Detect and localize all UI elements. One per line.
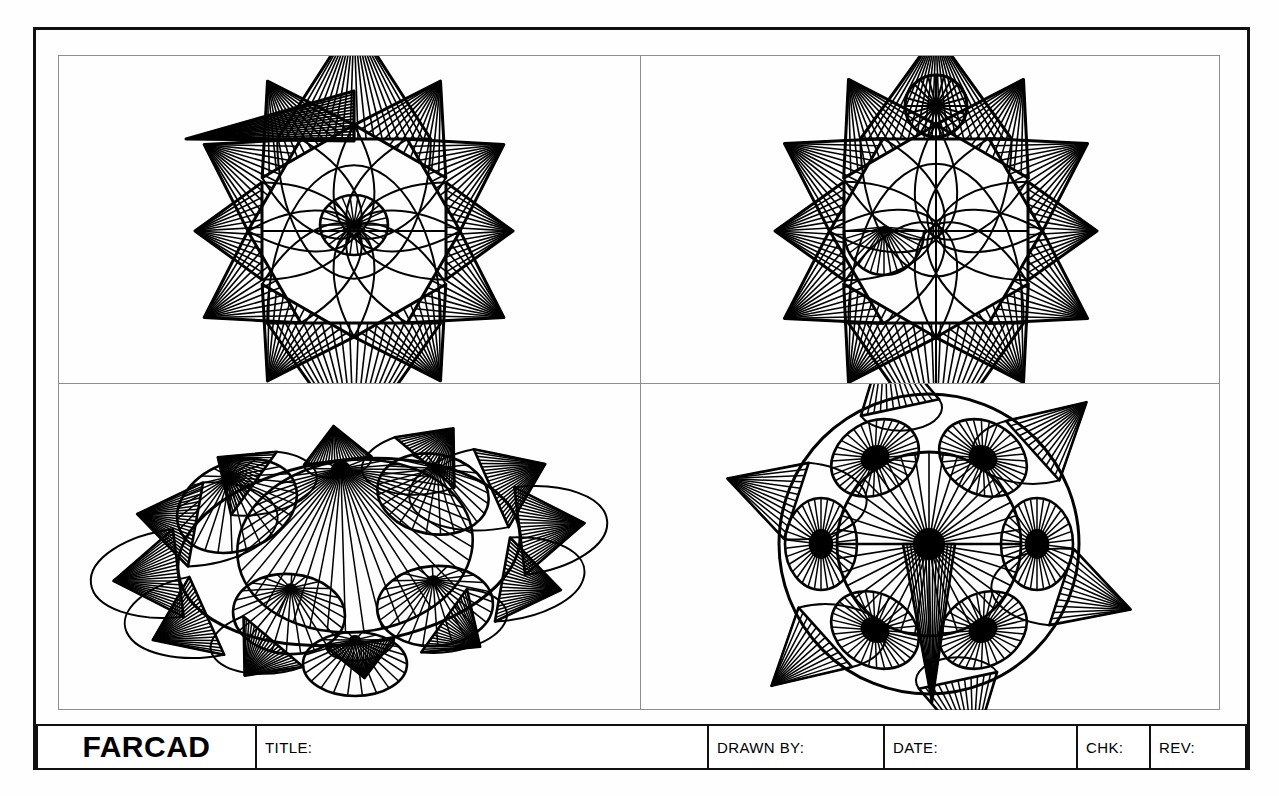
title-block-field-rev[interactable]: REV: bbox=[1151, 726, 1245, 768]
title-block-field-date[interactable]: DATE: bbox=[885, 726, 1078, 768]
front-view-drawing bbox=[59, 56, 640, 383]
title-label: TITLE: bbox=[257, 739, 312, 756]
drawn-by-label: DRAWN BY: bbox=[709, 739, 804, 756]
viewport-front-view[interactable] bbox=[59, 56, 640, 383]
viewport-top-view[interactable] bbox=[641, 384, 1220, 710]
drawing-sheet: FARCAD TITLE: DRAWN BY: DATE: CHK: REV: bbox=[0, 0, 1279, 796]
side-view-drawing bbox=[641, 56, 1220, 383]
title-block-field-title[interactable]: TITLE: bbox=[257, 726, 709, 768]
rev-label: REV: bbox=[1151, 739, 1195, 756]
viewport-side-view[interactable] bbox=[641, 56, 1220, 383]
chk-label: CHK: bbox=[1078, 739, 1123, 756]
title-block: FARCAD TITLE: DRAWN BY: DATE: CHK: REV: bbox=[36, 724, 1247, 770]
farcad-logo: FARCAD bbox=[83, 732, 211, 762]
title-block-field-chk[interactable]: CHK: bbox=[1078, 726, 1151, 768]
isometric-view-drawing bbox=[59, 384, 640, 710]
title-block-logo-cell: FARCAD bbox=[38, 726, 257, 768]
date-label: DATE: bbox=[885, 739, 938, 756]
viewport-isometric-view[interactable] bbox=[59, 384, 640, 710]
top-view-drawing bbox=[641, 384, 1220, 710]
title-block-field-drawn-by[interactable]: DRAWN BY: bbox=[709, 726, 885, 768]
